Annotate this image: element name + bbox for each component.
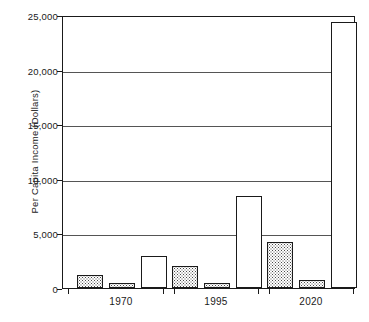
bar [204,283,230,288]
y-axis-tick-label: 10,000 [14,174,58,185]
bar [172,266,198,288]
bar [109,283,135,288]
bar [331,22,357,288]
x-axis-tick-label: 1970 [109,296,132,307]
x-axis-tick-marks [62,289,355,295]
y-axis-tick-label: 15,000 [14,120,58,131]
gridline [63,126,354,127]
x-axis-tick-labels: 197019952020 [62,296,355,312]
plot-area [62,16,355,289]
x-axis-tick-mark [269,289,270,294]
gridline [63,72,354,73]
x-axis-tick-label: 2020 [299,296,322,307]
y-axis-tick-label: 25,000 [14,11,58,22]
bar-chart: Per Capita Income (Dollars) 05,00010,000… [0,0,369,322]
x-axis-tick-mark [258,289,259,294]
bar [236,196,262,288]
x-axis-tick-mark [68,289,69,294]
x-axis-tick-mark [353,289,354,294]
bar [267,242,293,288]
bar [299,280,325,288]
y-axis-tick-labels: 05,00010,00015,00020,00025,000 [14,0,58,322]
gridline [63,181,354,182]
x-axis-tick-mark [174,289,175,294]
bar [77,275,103,288]
x-axis-tick-mark [163,289,164,294]
bar [141,256,167,288]
y-axis-tick-label: 20,000 [14,65,58,76]
gridline [63,235,354,236]
x-axis-tick-label: 1995 [204,296,227,307]
y-axis-tick-label: 0 [14,284,58,295]
y-axis-tick-label: 5,000 [14,229,58,240]
